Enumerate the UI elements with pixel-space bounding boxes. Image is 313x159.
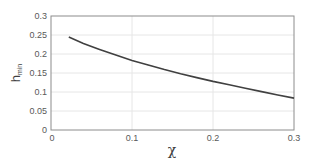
grid-lines — [51, 16, 294, 130]
x-tick-label: 0.1 — [126, 133, 139, 143]
x-axis-title: χ — [168, 142, 177, 158]
h-min-curve — [69, 37, 294, 98]
x-tick-label: 0.3 — [288, 133, 301, 143]
x-tick-label: 0.2 — [207, 133, 220, 143]
y-axis-ticks: 00.050.10.150.20.250.3 — [29, 11, 47, 135]
svg-text:hmin: hmin — [8, 64, 23, 83]
y-tick-label: 0.3 — [34, 11, 47, 21]
chart: 00.050.10.150.20.250.3 00.10.20.3 χ hmin — [0, 0, 313, 159]
y-tick-label: 0.1 — [34, 87, 47, 97]
y-tick-label: 0.2 — [34, 49, 47, 59]
y-tick-label: 0 — [42, 125, 47, 135]
y-tick-label: 0.05 — [29, 106, 47, 116]
y-tick-label: 0.25 — [29, 30, 47, 40]
y-axis-title-sub: min — [16, 64, 23, 75]
y-axis-title-main: h — [8, 75, 23, 82]
y-axis-title: hmin — [8, 64, 23, 83]
y-tick-label: 0.15 — [29, 68, 47, 78]
x-tick-label: 0 — [49, 133, 54, 143]
